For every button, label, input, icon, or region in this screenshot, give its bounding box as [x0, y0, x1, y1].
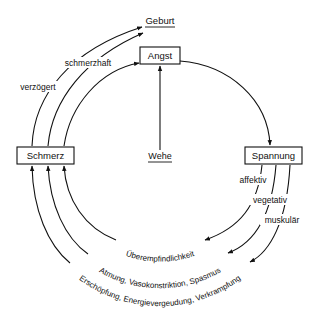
node-spannung: Spannung [245, 147, 302, 164]
arrow-schmerz-to-geburt-painful [48, 33, 143, 146]
label-muskulaer: muskulär [265, 215, 300, 225]
schmerz-label: Schmerz [27, 150, 65, 161]
geburt-label: Geburt [145, 15, 174, 26]
arrow-schmerz-to-angst [64, 63, 139, 146]
arrow-angst-to-spannung [180, 61, 270, 145]
node-angst: Angst [140, 47, 180, 64]
spannung-label: Spannung [252, 150, 295, 161]
label-vegetativ: vegetativ [253, 195, 288, 205]
label-verzoegert: verzögert [20, 82, 56, 92]
angst-label: Angst [148, 50, 173, 61]
fear-tension-pain-cycle-diagram: Geburt Angst Schmerz Spannung Wehe verzö… [0, 0, 320, 309]
label-schmerzhaft: schmerzhaft [65, 58, 112, 68]
node-schmerz: Schmerz [17, 147, 74, 164]
node-wehe: Wehe [148, 151, 172, 162]
label-middle-arc: Atmung, Vasokonstriktion, Spasmus [98, 266, 222, 291]
label-inner-arc: Überempfindlichkeit [125, 249, 196, 264]
wehe-label: Wehe [148, 151, 171, 161]
label-outer-arc: Erschöpfung, Energievergeudung, Verkramp… [78, 274, 243, 309]
arrow-spannung-to-schmerz-affective [64, 165, 262, 240]
node-geburt: Geburt [145, 15, 175, 27]
label-affektiv: affektiv [240, 175, 268, 185]
